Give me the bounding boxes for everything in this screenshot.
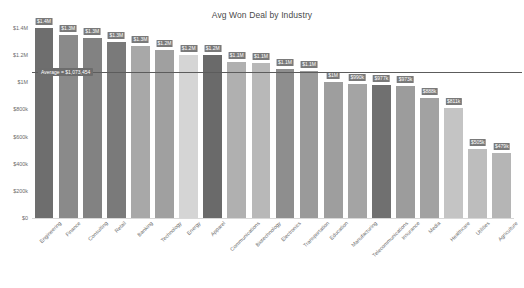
bar-value-label: $1.1M [228, 52, 245, 59]
bar-slot: $1.3M [80, 28, 104, 218]
bar-value-label: $1.3M [84, 28, 101, 35]
bar-value-label: $990k [349, 74, 366, 81]
bar-value-label: $505k [469, 139, 486, 146]
bar[interactable]: $990k [348, 84, 367, 218]
bar-value-label: $1M [327, 72, 340, 79]
y-axis-tick: $600k [13, 134, 28, 140]
bar-slot: $1.2M [201, 28, 225, 218]
chart-title: Avg Won Deal by Industry [0, 10, 524, 20]
chart-container: Avg Won Deal by Industry $1.4M$1.2M$1M$8… [0, 0, 524, 288]
bar-slot: $1.1M [273, 28, 297, 218]
x-axis-tick-slot: Utilities [466, 218, 490, 284]
bar-slot: $1.2M [152, 28, 176, 218]
bar-value-label: $1.2M [156, 40, 173, 47]
y-axis-tick: $800k [13, 106, 28, 112]
y-axis-tick: $400k [13, 161, 28, 167]
bar-slot: $888k [418, 28, 442, 218]
bar[interactable]: $479k [492, 153, 511, 218]
bar[interactable]: $1.3M [83, 38, 102, 219]
bar[interactable]: $1.1M [300, 71, 319, 218]
bar[interactable]: $973k [396, 86, 415, 218]
y-axis-tick: $1.4M [13, 25, 28, 31]
bar-slot: $1.4M [32, 28, 56, 218]
x-axis-tick-slot: Insurance [393, 218, 417, 284]
x-axis-tick-label: Finance [64, 220, 82, 238]
y-axis-tick: $1.2M [13, 52, 28, 58]
bar-slot: $1.1M [297, 28, 321, 218]
x-axis-tick-slot: Media [418, 218, 442, 284]
bar[interactable]: $1.2M [179, 55, 198, 218]
plot-area: $1.4M$1.3M$1.3M$1.3M$1.3M$1.2M$1.2M$1.2M… [32, 28, 514, 218]
bar[interactable]: $811k [444, 108, 463, 218]
x-axis-tick-slot: Energy [177, 218, 201, 284]
bar[interactable]: $505k [468, 149, 487, 218]
bar[interactable]: $1.1M [227, 62, 246, 218]
x-axis-tick-slot: Education [321, 218, 345, 284]
x-axis-tick-label: Media [427, 220, 441, 234]
bar-value-label: $811k [446, 98, 462, 105]
x-axis-tick-label: Energy [185, 220, 201, 236]
x-axis-tick-label: Agriculture [497, 220, 519, 242]
bar-value-label: $977k [373, 75, 390, 82]
x-axis-tick-slot: Finance [56, 218, 80, 284]
bar[interactable]: $1M [324, 82, 343, 218]
bar[interactable]: $1.4M [35, 28, 54, 218]
bar-value-label: $1.1M [301, 61, 318, 68]
x-axis-tick-slot: Biotechnology [249, 218, 273, 284]
x-axis-tick-slot: Communications [225, 218, 249, 284]
bar[interactable]: $1.3M [59, 35, 78, 218]
bar-value-label: $1.2M [204, 45, 221, 52]
x-axis-tick-label: Apparel [209, 220, 226, 237]
bar-slot: $977k [369, 28, 393, 218]
bar-value-label: $1.3M [108, 32, 125, 39]
bar-slot: $505k [466, 28, 490, 218]
x-axis-tick-slot: Engineering [32, 218, 56, 284]
x-axis-tick-slot: Banking [128, 218, 152, 284]
x-axis-tick-slot: Transportation [297, 218, 321, 284]
bar-series: $1.4M$1.3M$1.3M$1.3M$1.3M$1.2M$1.2M$1.2M… [32, 28, 514, 218]
bar-value-label: $1.3M [132, 36, 149, 43]
bar-slot: $1.2M [177, 28, 201, 218]
x-axis-tick-slot: Agriculture [490, 218, 514, 284]
bar-value-label: $973k [397, 76, 414, 83]
bar-value-label: $888k [421, 88, 438, 95]
bar-slot: $973k [393, 28, 417, 218]
bar[interactable]: $977k [372, 85, 391, 218]
bar-slot: $1M [321, 28, 345, 218]
bar-slot: $1.1M [249, 28, 273, 218]
bar[interactable]: $1.1M [252, 63, 271, 218]
x-axis-tick-slot: Consulting [80, 218, 104, 284]
x-axis-tick-slot: Telecommunications [369, 218, 393, 284]
bar-slot: $1.1M [225, 28, 249, 218]
bar[interactable]: $1.2M [203, 55, 222, 218]
y-axis-tick: $200k [13, 188, 28, 194]
bar-value-label: $1.4M [36, 18, 53, 25]
bar[interactable]: $1.2M [155, 50, 174, 218]
bar-value-label: $1.2M [180, 45, 197, 52]
average-line [32, 72, 522, 73]
bar[interactable]: $1.1M [276, 69, 295, 218]
bar[interactable]: $1.3M [107, 42, 126, 218]
bar-value-label: $1.3M [60, 25, 77, 32]
bar-value-label: $1.1M [252, 53, 269, 60]
x-axis-tick-label: Utilities [474, 220, 490, 236]
x-axis-tick-slot: Retail [104, 218, 128, 284]
x-axis-tick-slot: Technology [152, 218, 176, 284]
bar-slot: $811k [442, 28, 466, 218]
bar-slot: $990k [345, 28, 369, 218]
average-line-label: Average = $1,073,454 [38, 68, 93, 76]
bar-slot: $479k [490, 28, 514, 218]
y-axis-tick: $1M [18, 79, 29, 85]
y-axis-tick: $0 [22, 215, 28, 221]
x-axis-tick-slot: Electronics [273, 218, 297, 284]
bar[interactable]: $888k [420, 98, 439, 219]
x-axis: EngineeringFinanceConsultingRetailBankin… [32, 218, 514, 284]
bar-slot: $1.3M [104, 28, 128, 218]
bar-value-label: $1.1M [277, 59, 294, 66]
bar-slot: $1.3M [56, 28, 80, 218]
x-axis-tick-slot: Healthcare [442, 218, 466, 284]
x-axis-tick-slot: Apparel [201, 218, 225, 284]
x-axis-tick-slot: Manufacturing [345, 218, 369, 284]
bar-value-label: $479k [494, 143, 511, 150]
bar-slot: $1.3M [128, 28, 152, 218]
